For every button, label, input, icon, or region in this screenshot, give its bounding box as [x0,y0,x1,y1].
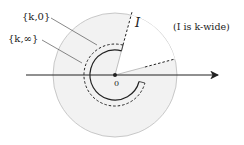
origin-point [113,73,117,77]
label-interval: I [134,15,141,30]
diagram-canvas: {k,0} {k,∞} I (I is k-wide) 0 [0,0,244,145]
label-origin: 0 [114,79,119,88]
label-note: (I is k-wide) [173,21,230,32]
label-k0: {k,0} [22,11,50,22]
label-kinf: {k,∞} [8,33,38,44]
